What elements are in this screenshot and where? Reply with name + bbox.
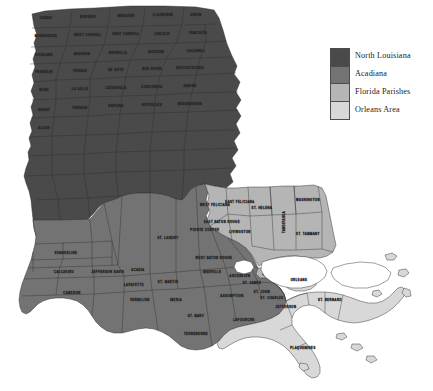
parish-label: WASHINGTON bbox=[296, 198, 320, 202]
parish-label: CADDO bbox=[40, 16, 52, 20]
parish-label: AVOYELLES bbox=[142, 103, 163, 107]
legend-label-acadiana: Acadiana bbox=[355, 69, 387, 79]
parish-label: BOSSIER bbox=[80, 15, 96, 19]
louisiana-cultural-regions-map: CADDO BOSSIER WEBSTER CLAIBORNE UNION MO… bbox=[0, 0, 433, 391]
legend-label-florida-parishes: Florida Parishes bbox=[355, 87, 410, 97]
legend-swatch-orleans-area bbox=[331, 102, 349, 120]
parish-label: MOREHOUSE bbox=[35, 34, 58, 38]
legend-label-north-louisiana: North Louisiana bbox=[355, 51, 411, 61]
parish-label: ASSUMPTION bbox=[220, 294, 243, 298]
legend-swatch-north-louisiana bbox=[331, 49, 349, 67]
parish-label: RICHLAND bbox=[35, 53, 53, 57]
parish-label: WEST CARROLL bbox=[74, 33, 102, 37]
parish-label: IBERIA bbox=[170, 298, 182, 302]
region-legend: North Louisiana Acadiana Florida Parishe… bbox=[330, 48, 430, 121]
parish-label: WINN bbox=[39, 88, 48, 92]
parish-label: TERREBONNE bbox=[184, 332, 208, 336]
parish-label: PLAQUEMINES bbox=[290, 346, 315, 350]
parish-label: CLAIBORNE bbox=[153, 13, 173, 17]
parish-label: ALLEN bbox=[38, 126, 49, 130]
parish-label: RED RIVER bbox=[142, 67, 162, 71]
legend-swatch-florida-parishes bbox=[331, 84, 349, 102]
parish-label: ST. BERNARD bbox=[318, 298, 342, 302]
parish-label: VERNON bbox=[73, 106, 88, 110]
parish-label: ST. MARTIN bbox=[158, 280, 178, 284]
legend-swatch-acadiana bbox=[331, 67, 349, 85]
parish-label: ORLEANS bbox=[291, 278, 308, 282]
parish-label: CALDWELL bbox=[187, 49, 206, 53]
parish-label: CAMERON bbox=[63, 291, 81, 295]
parish-label: TENSAS bbox=[73, 69, 87, 73]
parish-label: ASCENSION bbox=[230, 274, 251, 278]
parish-label: ST. CHARLES bbox=[260, 296, 283, 300]
parish-label: BIENVILLE bbox=[109, 51, 128, 55]
parish-label: CATAHOULA bbox=[106, 86, 127, 90]
parish-label: LA SALLE bbox=[72, 87, 89, 91]
legend-swatch-column bbox=[330, 48, 350, 120]
parish-label: CALCASIEU bbox=[54, 270, 74, 274]
parish-label: JEFFERSON DAVIS bbox=[92, 270, 125, 274]
parish-label: EAST BATON ROUGE bbox=[204, 220, 240, 224]
parish-label: FRANKLIN bbox=[35, 70, 53, 74]
parish-label: WEST BATON ROUGE bbox=[196, 256, 233, 260]
parish-label: ACADIA bbox=[131, 268, 144, 272]
parish-label: POINTE COUPEE bbox=[190, 228, 219, 232]
parish-label: MADISON bbox=[74, 52, 90, 56]
parish-label: ST. LANDRY bbox=[158, 236, 179, 240]
parish-label: ST. TAMMANY bbox=[296, 232, 320, 236]
parish-label: SABINE bbox=[183, 84, 196, 88]
parish-label: LAFAYETTE bbox=[124, 283, 144, 287]
parish-label: LINCOLN bbox=[154, 32, 170, 36]
parish-label: ST. MARY bbox=[188, 314, 205, 318]
parish-label: UNION bbox=[190, 13, 201, 17]
parish-label: IBERVILLE bbox=[203, 270, 222, 274]
parish-label: EAST FELICIANA bbox=[225, 200, 254, 204]
parish-label: LIVINGSTON bbox=[229, 230, 251, 234]
legend-label-orleans-area: Orleans Area bbox=[355, 105, 400, 115]
parish-label: ST. JOHN bbox=[254, 290, 270, 294]
parish-label: ST. JAMES bbox=[243, 281, 262, 285]
parish-label: ST. HELENA bbox=[252, 206, 273, 210]
parish-label: TANGIPAHOA bbox=[282, 211, 286, 233]
parish-label: WEBSTER bbox=[117, 14, 134, 18]
parish-label: JEFFERSON bbox=[276, 305, 297, 309]
parish-label: OUACHITA bbox=[189, 31, 207, 35]
parish-label: DE SOTO bbox=[108, 68, 124, 72]
parish-label: NATCHITOCHES bbox=[176, 66, 204, 70]
lake-maurepas bbox=[234, 260, 254, 274]
parish-label: JACKSON bbox=[148, 50, 165, 54]
parish-label: CONCORDIA bbox=[141, 85, 162, 89]
parish-label: RAPIDES bbox=[108, 104, 124, 108]
parish-label: GRANT bbox=[38, 108, 50, 112]
parish-label: EAST CARROLL bbox=[112, 32, 139, 36]
parish-label: BEAUREGARD bbox=[178, 102, 202, 106]
parish-label: VERMILION bbox=[130, 298, 150, 302]
parish-label: EVANGELINE bbox=[55, 251, 77, 255]
parish-label: LAFOURCHE bbox=[233, 318, 255, 322]
